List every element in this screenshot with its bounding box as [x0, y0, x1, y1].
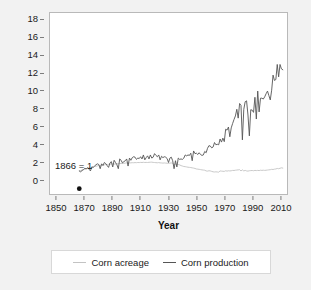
x-tick-1910: 1910: [130, 196, 151, 213]
x-tick-label: 1850: [45, 202, 66, 213]
y-tick-mark: [40, 126, 44, 127]
legend-line-icon: [73, 262, 86, 263]
y-tick-label: 12: [27, 68, 38, 78]
y-tick-label: 0: [33, 176, 38, 186]
legend-entry-corn-acreage[interactable]: Corn acreage: [73, 257, 149, 268]
x-tick-1970: 1970: [214, 196, 235, 213]
y-tick-mark: [40, 180, 44, 181]
y-tick-14: 14: [27, 50, 44, 60]
y-tick-label: 2: [33, 158, 38, 168]
y-tick-label: 16: [27, 32, 38, 42]
x-tick-1930: 1930: [158, 196, 179, 213]
series-line-corn-production: [79, 64, 283, 171]
x-axis-title: Year: [49, 220, 288, 231]
y-tick-18: 18: [27, 14, 44, 24]
x-tick-label: 1870: [74, 202, 95, 213]
x-tick-mark: [252, 196, 253, 200]
y-tick-label: 14: [27, 50, 38, 60]
y-tick-2: 2: [33, 158, 44, 168]
y-axis: 181614121086420: [0, 12, 44, 195]
legend-label: Corn acreage: [91, 257, 149, 268]
y-tick-label: 10: [27, 86, 38, 96]
y-tick-mark: [40, 162, 44, 163]
y-tick-0: 0: [33, 176, 44, 186]
y-tick-mark: [40, 144, 44, 145]
y-tick-label: 18: [27, 14, 38, 24]
y-tick-mark: [40, 73, 44, 74]
x-tick-label: 1990: [242, 202, 263, 213]
y-tick-label: 8: [33, 104, 38, 114]
x-tick-1890: 1890: [102, 196, 123, 213]
x-tick-1870: 1870: [74, 196, 95, 213]
x-tick-2010: 2010: [270, 196, 291, 213]
x-tick-label: 2010: [270, 202, 291, 213]
y-tick-10: 10: [27, 86, 44, 96]
x-tick-1950: 1950: [186, 196, 207, 213]
x-tick-mark: [112, 196, 113, 200]
y-tick-mark: [40, 55, 44, 56]
annotation-marker-group: [77, 186, 82, 191]
y-tick-4: 4: [33, 140, 44, 150]
x-tick-label: 1930: [158, 202, 179, 213]
y-tick-mark: [40, 19, 44, 20]
x-axis: 185018701890191019301950197019902010: [49, 196, 288, 216]
y-tick-6: 6: [33, 122, 44, 132]
x-tick-mark: [168, 196, 169, 200]
x-tick-1990: 1990: [242, 196, 263, 213]
x-tick-mark: [140, 196, 141, 200]
x-tick-mark: [56, 196, 57, 200]
x-tick-mark: [196, 196, 197, 200]
y-tick-label: 6: [33, 122, 38, 132]
chart-figure: 181614121086420 1866 = 1 185018701890191…: [0, 0, 311, 290]
y-tick-mark: [40, 90, 44, 91]
y-tick-16: 16: [27, 32, 44, 42]
chart-legend: Corn acreageCorn production: [51, 250, 271, 274]
y-tick-label: 4: [33, 140, 38, 150]
x-tick-mark: [224, 196, 225, 200]
series-group: [79, 64, 283, 172]
x-tick-label: 1890: [102, 202, 123, 213]
y-tick-12: 12: [27, 68, 44, 78]
x-tick-label: 1910: [130, 202, 151, 213]
y-tick-mark: [40, 108, 44, 109]
x-tick-mark: [84, 196, 85, 200]
legend-entry-corn-production[interactable]: Corn production: [163, 257, 249, 268]
y-tick-8: 8: [33, 104, 44, 114]
x-tick-mark: [280, 196, 281, 200]
x-tick-1850: 1850: [45, 196, 66, 213]
legend-line-icon: [163, 262, 176, 263]
annotation-marker: [77, 186, 82, 191]
x-tick-label: 1950: [186, 202, 207, 213]
x-tick-label: 1970: [214, 202, 235, 213]
legend-label: Corn production: [181, 257, 249, 268]
annotation-1866-equals-1: 1866 = 1: [55, 160, 92, 171]
y-tick-mark: [40, 37, 44, 38]
